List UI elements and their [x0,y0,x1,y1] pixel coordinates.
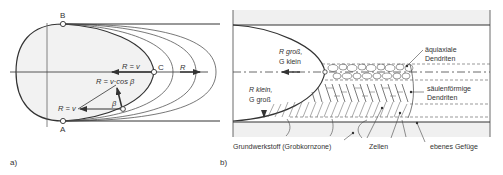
label-a: A [60,125,66,134]
label-b: B [60,11,65,20]
label-g-gross: G groß [249,96,271,104]
label-c: C [158,63,164,72]
point-b [60,21,65,26]
label-r: R [180,63,186,72]
point-tangent [121,107,126,112]
columnar-dendrites [312,84,408,102]
point-c [151,69,156,74]
panel-b-label: b) [220,158,227,167]
top-band [233,10,490,25]
equiaxed-grains [328,64,413,79]
label-r-eq-vcos: R = v·cos β [96,77,135,86]
label-r-eq-v-bottom: R = v [58,104,77,113]
panel-b: R groß, G klein R klein, G groß äquiaxia… [220,10,490,167]
cell-lines [268,102,407,117]
label-g-klein: G klein [279,58,301,65]
label-r-klein: R klein, [249,86,272,93]
label-saeulen-dendriten: Dendriten [427,94,457,101]
weld-solidification-diagram: B A C R = v R R = v·cos β β R = v a) [0,0,503,175]
bottom-band [233,122,490,137]
label-ebenes-gefuege: ebenes Gefüge [430,143,478,151]
label-grundwerkstoff: Grundwerkstoff (Grobkornzone) [233,143,331,151]
label-beta: β [111,99,117,108]
label-aequiaxiale: äquiaxiale [425,46,457,54]
panel-a: B A C R = v R R = v·cos β β R = v a) [10,11,220,167]
label-r-eq-v-top: R = v [122,62,141,71]
panel-a-label: a) [10,158,17,167]
weld-pool-boundary [233,25,325,121]
label-aequiaxiale-dendriten: Dendriten [425,55,455,62]
label-r-gross: R groß, [279,48,302,56]
label-saeulen: säulenförmige [427,85,471,93]
point-a [60,118,65,123]
nucleus-point [323,70,327,74]
label-zellen: Zellen [369,143,388,150]
